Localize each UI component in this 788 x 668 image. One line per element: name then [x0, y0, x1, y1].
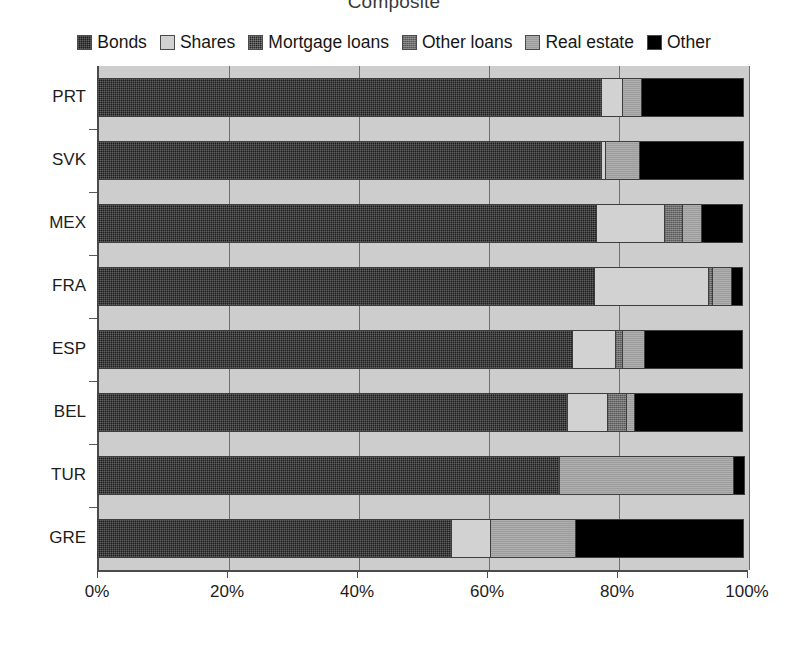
x-tick-80 — [617, 570, 618, 578]
bar-segment-bel-otherloans[interactable] — [607, 393, 627, 432]
legend-label-mortgage: Mortgage loans — [268, 34, 389, 52]
bar-segment-svk-realestate[interactable] — [605, 141, 640, 180]
y-tick-3 — [89, 255, 97, 256]
bar-prt[interactable] — [97, 78, 747, 117]
category-label-prt: PRT — [0, 87, 86, 107]
legend-swatch-shares — [160, 35, 175, 50]
legend-item-mortgage[interactable]: Mortgage loans — [248, 34, 389, 52]
legend-item-other[interactable]: Other — [647, 34, 711, 52]
x-tick-20 — [227, 570, 228, 578]
x-tick-label-0: 0% — [85, 582, 110, 602]
category-label-gre: GRE — [0, 528, 86, 548]
bar-segment-fra-bonds[interactable] — [97, 267, 595, 306]
x-tick-60 — [487, 570, 488, 578]
chart-title: Composite — [0, 0, 788, 13]
legend-item-shares[interactable]: Shares — [160, 34, 235, 52]
y-tick-1 — [89, 129, 97, 130]
bar-segment-gre-bonds[interactable] — [97, 519, 452, 558]
legend-label-bonds: Bonds — [97, 34, 147, 52]
chart-legend: BondsSharesMortgage loansOther loansReal… — [0, 34, 788, 52]
bar-segment-svk-other[interactable] — [639, 141, 744, 180]
bar-segment-prt-other[interactable] — [641, 78, 744, 117]
legend-label-other: Other — [667, 34, 711, 52]
x-tick-100 — [747, 570, 748, 578]
bar-bel[interactable] — [97, 393, 747, 432]
bar-segment-prt-bonds[interactable] — [97, 78, 602, 117]
bar-segment-prt-realestate[interactable] — [622, 78, 642, 117]
y-tick-2 — [89, 192, 97, 193]
category-label-fra: FRA — [0, 276, 86, 296]
bar-segment-fra-realestate[interactable] — [712, 267, 732, 306]
bar-segment-mex-other[interactable] — [701, 204, 743, 243]
x-axis-line — [97, 570, 748, 572]
bar-segment-tur-other[interactable] — [733, 456, 745, 495]
bar-segment-fra-other[interactable] — [731, 267, 743, 306]
category-label-tur: TUR — [0, 465, 86, 485]
bar-segment-bel-other[interactable] — [634, 393, 743, 432]
y-tick-7 — [89, 507, 97, 508]
bar-gre[interactable] — [97, 519, 747, 558]
legend-item-otherloans[interactable]: Other loans — [402, 34, 512, 52]
category-label-svk: SVK — [0, 150, 86, 170]
x-tick-label-20: 20% — [210, 582, 244, 602]
chart-container: Composite BondsSharesMortgage loansOther… — [0, 0, 788, 668]
category-label-esp: ESP — [0, 339, 86, 359]
bar-segment-esp-bonds[interactable] — [97, 330, 573, 369]
bar-segment-prt-shares[interactable] — [601, 78, 623, 117]
y-tick-4 — [89, 318, 97, 319]
legend-item-bonds[interactable]: Bonds — [77, 34, 147, 52]
bar-segment-tur-realestate[interactable] — [559, 456, 734, 495]
bar-segment-fra-shares[interactable] — [594, 267, 709, 306]
bar-segment-esp-other[interactable] — [644, 330, 743, 369]
legend-label-otherloans: Other loans — [422, 34, 512, 52]
legend-item-realestate[interactable]: Real estate — [525, 34, 634, 52]
bar-svk[interactable] — [97, 141, 747, 180]
bar-mex[interactable] — [97, 204, 747, 243]
y-tick-5 — [89, 381, 97, 382]
legend-swatch-other — [647, 35, 662, 50]
bar-segment-gre-realestate[interactable] — [490, 519, 576, 558]
legend-label-shares: Shares — [180, 34, 235, 52]
bar-segment-mex-bonds[interactable] — [97, 204, 597, 243]
x-tick-label-80: 80% — [600, 582, 634, 602]
bar-segment-tur-bonds[interactable] — [97, 456, 560, 495]
bar-segment-mex-otherloans[interactable] — [664, 204, 683, 243]
bar-segment-mex-realestate[interactable] — [682, 204, 702, 243]
bar-fra[interactable] — [97, 267, 747, 306]
legend-label-realestate: Real estate — [545, 34, 634, 52]
x-tick-label-60: 60% — [470, 582, 504, 602]
x-tick-label-40: 40% — [340, 582, 374, 602]
bar-segment-bel-shares[interactable] — [567, 393, 607, 432]
bar-esp[interactable] — [97, 330, 747, 369]
bar-segment-esp-shares[interactable] — [572, 330, 616, 369]
bar-tur[interactable] — [97, 456, 747, 495]
bar-segment-mex-shares[interactable] — [596, 204, 665, 243]
bar-segment-gre-shares[interactable] — [451, 519, 491, 558]
bar-segment-bel-bonds[interactable] — [97, 393, 568, 432]
x-tick-label-100: 100% — [725, 582, 768, 602]
bar-segment-esp-realestate[interactable] — [622, 330, 645, 369]
x-tick-40 — [357, 570, 358, 578]
bar-segment-svk-bonds[interactable] — [97, 141, 602, 180]
legend-swatch-otherloans — [402, 35, 417, 50]
legend-swatch-realestate — [525, 35, 540, 50]
category-label-mex: MEX — [0, 213, 86, 233]
x-tick-0 — [97, 570, 98, 578]
legend-swatch-bonds — [77, 35, 92, 50]
y-tick-6 — [89, 444, 97, 445]
legend-swatch-mortgage — [248, 35, 263, 50]
bar-segment-gre-other[interactable] — [575, 519, 744, 558]
category-label-bel: BEL — [0, 402, 86, 422]
